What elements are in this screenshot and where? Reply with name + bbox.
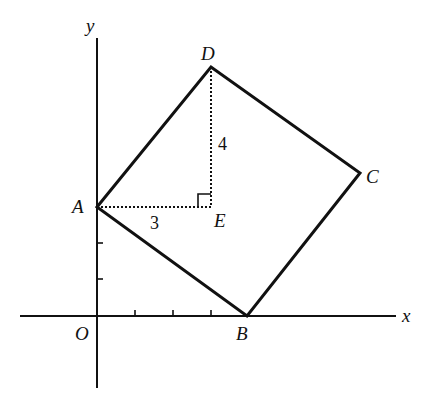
x-axis-label: x bbox=[401, 305, 411, 326]
y-axis-label: y bbox=[84, 15, 95, 36]
point-b-label: B bbox=[236, 323, 248, 344]
right-angle-marker bbox=[198, 194, 211, 207]
square-abcd bbox=[97, 67, 360, 316]
point-d-label: D bbox=[200, 43, 215, 64]
point-e-label: E bbox=[213, 210, 226, 231]
point-a-label: A bbox=[70, 196, 84, 217]
length-de-label: 4 bbox=[218, 134, 227, 154]
origin-label: O bbox=[75, 323, 89, 344]
geometry-diagram: y x O A B C D E 3 4 bbox=[0, 0, 439, 401]
point-c-label: C bbox=[366, 166, 379, 187]
length-ae-label: 3 bbox=[150, 213, 159, 233]
